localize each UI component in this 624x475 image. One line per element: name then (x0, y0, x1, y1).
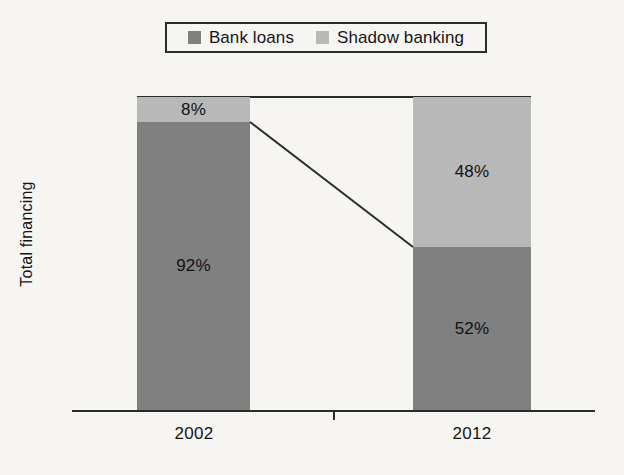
legend-swatch-bank-loans-icon (188, 31, 201, 44)
legend-item-bank-loans: Bank loans (188, 29, 294, 46)
x-tick-label-2012: 2012 (420, 424, 524, 444)
bar-2012: 48% 52% (413, 97, 531, 410)
legend-label-bank-loans: Bank loans (209, 29, 294, 46)
x-axis-tick-middle (333, 411, 335, 420)
legend-item-shadow-banking: Shadow banking (316, 29, 464, 46)
bar-2012-segment-bank-loans: 52% (413, 247, 531, 410)
x-tick-label-2002: 2002 (143, 424, 245, 444)
bar-2002-label-shadow-banking: 8% (181, 101, 206, 119)
stacked-bar-chart: Bank loans Shadow banking 8% 92% 48% 52%… (0, 0, 624, 475)
legend-label-shadow-banking: Shadow banking (337, 29, 464, 46)
legend-swatch-shadow-banking-icon (316, 31, 329, 44)
y-axis-title: Total financing (18, 149, 36, 319)
chart-legend: Bank loans Shadow banking (165, 22, 487, 53)
bar-2002: 8% 92% (137, 97, 250, 410)
bar-2002-label-bank-loans: 92% (176, 257, 211, 275)
bar-2012-label-shadow-banking: 48% (455, 163, 490, 181)
bar-2002-segment-shadow-banking: 8% (137, 97, 250, 122)
bar-2012-segment-shadow-banking: 48% (413, 97, 531, 247)
bar-2012-label-bank-loans: 52% (455, 320, 490, 338)
bar-2002-segment-bank-loans: 92% (137, 122, 250, 410)
